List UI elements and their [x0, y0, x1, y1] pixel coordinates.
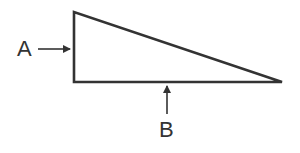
label-b: B: [159, 119, 174, 141]
triangle-diagram: [0, 0, 300, 153]
triangle-shape: [74, 12, 282, 82]
label-a: A: [17, 38, 32, 60]
diagram-canvas: A B: [0, 0, 300, 153]
